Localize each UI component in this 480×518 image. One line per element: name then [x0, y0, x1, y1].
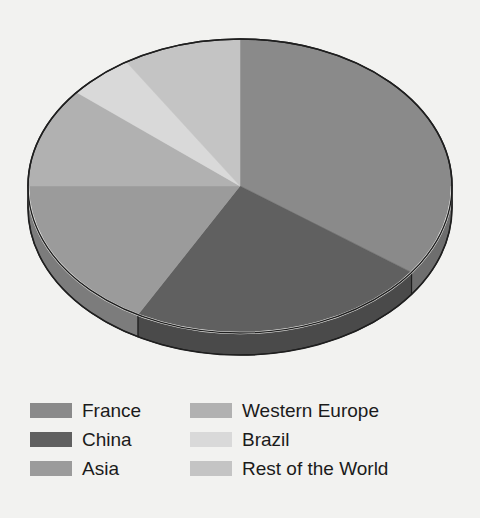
legend-swatch-rest-of-the-world: [190, 461, 232, 476]
legend-item-rest-of-the-world[interactable]: Rest of the World: [190, 454, 480, 483]
legend-label-china: China: [82, 429, 132, 450]
pie-chart-page: France China Asia Western Europe Brazil: [0, 0, 480, 518]
legend-label-asia: Asia: [82, 458, 119, 479]
legend-swatch-western-europe: [190, 403, 232, 418]
legend-item-western-europe[interactable]: Western Europe: [190, 396, 480, 425]
legend-label-western-europe: Western Europe: [242, 400, 379, 421]
chart-legend: France China Asia Western Europe Brazil: [0, 396, 480, 496]
legend-label-brazil: Brazil: [242, 429, 290, 450]
legend-label-france: France: [82, 400, 141, 421]
legend-swatch-asia: [30, 461, 72, 476]
legend-label-rest-of-the-world: Rest of the World: [242, 458, 388, 479]
legend-swatch-brazil: [190, 432, 232, 447]
legend-item-asia[interactable]: Asia: [30, 454, 190, 483]
chart-plot-area: [0, 0, 480, 380]
pie-top-faces: [28, 39, 452, 333]
legend-column-right: Western Europe Brazil Rest of the World: [190, 396, 480, 496]
legend-swatch-france: [30, 403, 72, 418]
legend-item-brazil[interactable]: Brazil: [190, 425, 480, 454]
legend-item-china[interactable]: China: [30, 425, 190, 454]
pie-chart-3d: [0, 0, 480, 380]
legend-swatch-china: [30, 432, 72, 447]
legend-column-left: France China Asia: [0, 396, 190, 496]
legend-item-france[interactable]: France: [30, 396, 190, 425]
